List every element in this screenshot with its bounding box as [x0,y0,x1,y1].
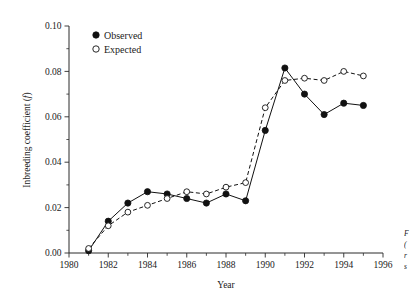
data-point-expected [86,246,92,252]
data-point-expected [302,75,308,81]
x-tick-label: 1986 [177,260,196,270]
legend-label-expected: Expected [104,44,141,55]
data-point-expected [164,196,170,202]
data-point-observed [203,200,209,206]
data-point-expected [262,105,268,111]
y-tick-label: 0.10 [45,21,62,31]
y-axis-title-text: Inbreeding coefficient [22,103,32,187]
x-axis-title: Year [217,280,235,290]
data-point-expected [243,180,249,186]
y-axis-title: Inbreeding coefficient (f) [22,92,33,187]
data-point-expected [184,189,190,195]
legend-label-observed: Observed [104,30,142,41]
data-point-observed [262,127,268,133]
legend-marker-expected [93,46,99,52]
data-point-expected [223,184,229,190]
y-tick-label: 0.06 [45,112,62,122]
x-axis-tick-marks [69,253,383,258]
x-tick-label: 1982 [99,260,118,270]
data-point-observed [341,100,347,106]
x-tick-label: 1996 [374,260,393,270]
data-point-observed [223,191,229,197]
x-tick-label: 1984 [138,260,157,270]
legend-marker-observed [93,32,99,38]
series-markers [86,65,367,254]
x-tick-label: 1994 [334,260,353,270]
y-tick-label: 0.02 [45,203,62,213]
chart-legend: Observed Expected [93,30,143,55]
x-tick-label: 1988 [217,260,236,270]
data-point-expected [125,209,131,215]
series-line-observed [89,68,364,251]
y-tick-label: 0.00 [45,248,62,258]
x-axis-tick-labels: 198019821984198619881990199219941996 [60,260,393,270]
data-point-expected [282,78,288,84]
data-point-expected [145,202,151,208]
clipped-caption: F ( r s [404,228,420,290]
x-tick-label: 1990 [256,260,275,270]
series-lines [89,68,364,251]
data-point-expected [203,191,209,197]
inbreeding-coefficient-chart: 0.000.020.040.060.080.10 198019821984198… [0,0,420,300]
series-line-expected [89,71,364,248]
figure-panel: 0.000.020.040.060.080.10 198019821984198… [0,0,420,300]
x-tick-label: 1992 [295,260,314,270]
data-point-observed [125,200,131,206]
x-tick-label: 1980 [60,260,79,270]
y-tick-label: 0.04 [45,157,62,167]
y-axis-tick-labels: 0.000.020.040.060.080.10 [45,21,62,258]
data-point-expected [360,73,366,79]
caption-line: F [404,228,420,239]
data-point-expected [321,78,327,84]
caption-line: s [404,261,420,272]
data-point-observed [144,189,150,195]
y-tick-label: 0.08 [45,67,62,77]
data-point-expected [341,69,347,75]
y-axis-tick-marks [65,26,70,253]
data-point-observed [184,195,190,201]
data-point-observed [360,102,366,108]
data-point-observed [301,91,307,97]
data-point-expected [105,223,111,229]
data-point-observed [243,198,249,204]
chart-axes [69,26,383,253]
caption-line: r [404,250,420,261]
data-point-observed [321,111,327,117]
data-point-observed [282,65,288,71]
caption-line: ( [404,239,420,250]
